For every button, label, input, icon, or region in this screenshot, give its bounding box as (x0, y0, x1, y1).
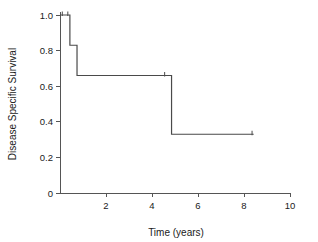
x-tick-label: 4 (149, 200, 154, 211)
y-tick-label: 0 (48, 188, 53, 199)
x-tick-label: 8 (241, 200, 246, 211)
survival-step-curve (60, 15, 254, 134)
x-axis-ticks: 246810 (103, 193, 295, 211)
y-axis-title: Disease Specific Survival (7, 48, 18, 160)
y-tick-label: 0.6 (40, 81, 53, 92)
censor-marks-group (62, 12, 252, 136)
y-tick-label: 1.0 (40, 10, 53, 21)
x-axis-title: Time (years) (148, 227, 204, 238)
y-tick-label: 0.2 (40, 152, 53, 163)
survival-chart-figure: 00.20.40.60.81.0 246810 Time (years) Dis… (0, 0, 318, 242)
kaplan-meier-plot: 00.20.40.60.81.0 246810 Time (years) Dis… (0, 0, 318, 242)
y-axis-ticks: 00.20.40.60.81.0 (40, 10, 60, 199)
axes (60, 12, 290, 193)
x-tick-label: 2 (103, 200, 108, 211)
x-tick-label: 10 (285, 200, 296, 211)
y-tick-label: 0.4 (40, 116, 53, 127)
survival-curve-group (60, 15, 254, 134)
x-tick-label: 6 (195, 200, 200, 211)
y-tick-label: 0.8 (40, 45, 53, 56)
